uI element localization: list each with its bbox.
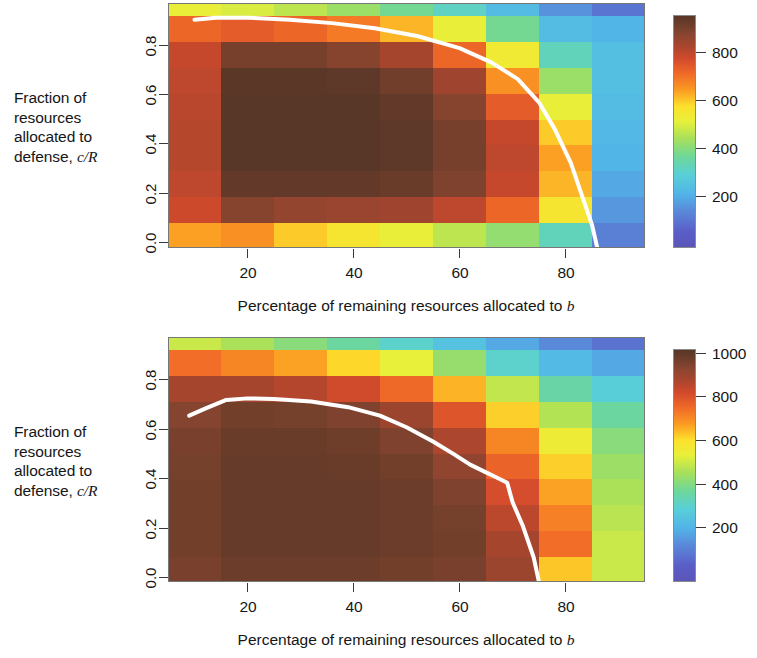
colorbar-bottom bbox=[673, 349, 696, 582]
y-axis-label-bottom: Fraction of resources allocated to defen… bbox=[14, 422, 97, 500]
y-tick-mark-bottom-2 bbox=[159, 478, 168, 479]
colorbar-label-top-1: 600 bbox=[712, 92, 738, 110]
y-tick-mark-bottom-3 bbox=[159, 528, 168, 529]
x-tick-mark-top-0 bbox=[247, 249, 248, 258]
y-tick-label-bottom-0: 0.8 bbox=[142, 370, 159, 391]
y-axis-label-line-3: allocated to bbox=[14, 127, 97, 147]
y-axis-label-line-2: resources bbox=[14, 108, 97, 128]
x-tick-label-bottom-2: 60 bbox=[451, 598, 468, 616]
y-tick-label-bottom-1: 0.6 bbox=[142, 420, 159, 441]
y-axis-label-bottom-line-1: Fraction of bbox=[14, 422, 97, 442]
colorbar-tick-mark-bottom-1 bbox=[696, 396, 706, 397]
colorbar-top bbox=[673, 15, 696, 248]
colorbar-tick-mark-bottom-2 bbox=[696, 440, 706, 441]
colorbar-label-top-2: 400 bbox=[712, 140, 738, 158]
figure-root: Fraction of resources allocated to defen… bbox=[0, 0, 757, 658]
x-tick-mark-top-3 bbox=[565, 249, 566, 258]
y-axis-label-math-r: R bbox=[88, 148, 97, 165]
x-axis-label-top: Percentage of remaining resources alloca… bbox=[238, 297, 575, 315]
heatmap-top[interactable] bbox=[168, 3, 645, 248]
x-tick-label-top-3: 80 bbox=[557, 264, 574, 282]
x-tick-label-top-0: 20 bbox=[239, 264, 256, 282]
x-axis-label-top-math-b: b bbox=[567, 297, 575, 314]
optimal-allocation-curve bbox=[168, 337, 645, 582]
y-tick-mark-bottom-0 bbox=[159, 379, 168, 380]
y-axis-label-line-1: Fraction of bbox=[14, 88, 97, 108]
colorbar-tick-mark-top-1 bbox=[696, 100, 706, 101]
y-axis-label-top: Fraction of resources allocated to defen… bbox=[14, 88, 97, 166]
x-tick-mark-top-2 bbox=[459, 249, 460, 258]
colorbar-tick-mark-bottom-3 bbox=[696, 484, 706, 485]
colorbar-tick-mark-bottom-0 bbox=[696, 353, 706, 354]
x-tick-label-bottom-3: 80 bbox=[557, 598, 574, 616]
y-tick-mark-top-2 bbox=[159, 143, 168, 144]
y-axis-label-bottom-math-c: c bbox=[77, 482, 84, 499]
y-tick-label-top-0: 0.8 bbox=[142, 36, 159, 57]
colorbar-tick-mark-bottom-4 bbox=[696, 527, 706, 528]
y-axis-label-bottom-math-r: R bbox=[88, 482, 97, 499]
x-tick-label-top-2: 60 bbox=[451, 264, 468, 282]
y-tick-mark-bottom-4 bbox=[159, 577, 168, 578]
y-axis-label-line-4-text: defense, bbox=[14, 148, 77, 165]
x-axis-label-bottom-text: Percentage of remaining resources alloca… bbox=[238, 631, 567, 648]
colorbar-tick-mark-top-3 bbox=[696, 196, 706, 197]
y-axis-label-bottom-line-4-text: defense, bbox=[14, 482, 77, 499]
x-tick-mark-bottom-1 bbox=[353, 583, 354, 592]
x-tick-label-bottom-0: 20 bbox=[239, 598, 256, 616]
colorbar-label-bottom-4: 200 bbox=[712, 519, 738, 537]
y-tick-label-top-3: 0.2 bbox=[142, 184, 159, 205]
x-tick-mark-bottom-3 bbox=[565, 583, 566, 592]
colorbar-label-top-0: 800 bbox=[712, 44, 738, 62]
y-tick-mark-top-1 bbox=[159, 94, 168, 95]
y-axis-label-bottom-line-4: defense, c/R bbox=[14, 481, 97, 501]
colorbar-label-bottom-1: 800 bbox=[712, 388, 738, 406]
y-axis-label-line-4: defense, c/R bbox=[14, 147, 97, 167]
y-tick-label-top-2: 0.4 bbox=[142, 134, 159, 155]
optimal-allocation-curve bbox=[168, 3, 645, 248]
heatmap-bottom[interactable] bbox=[168, 337, 645, 582]
y-tick-label-bottom-3: 0.2 bbox=[142, 519, 159, 540]
x-axis-label-bottom: Percentage of remaining resources alloca… bbox=[238, 631, 575, 649]
y-axis-label-math-c: c bbox=[77, 148, 84, 165]
x-tick-mark-top-1 bbox=[353, 249, 354, 258]
y-tick-label-bottom-4: 0.0 bbox=[142, 568, 159, 589]
colorbar-label-bottom-0: 1000 bbox=[712, 345, 746, 363]
colorbar-label-top-3: 200 bbox=[712, 188, 738, 206]
x-tick-mark-bottom-0 bbox=[247, 583, 248, 592]
y-axis-label-bottom-line-2: resources bbox=[14, 442, 97, 462]
x-tick-label-top-1: 40 bbox=[345, 264, 362, 282]
y-tick-mark-bottom-1 bbox=[159, 429, 168, 430]
colorbar-label-bottom-2: 600 bbox=[712, 432, 738, 450]
y-tick-mark-top-4 bbox=[159, 242, 168, 243]
x-tick-label-bottom-1: 40 bbox=[345, 598, 362, 616]
colorbar-label-bottom-3: 400 bbox=[712, 476, 738, 494]
colorbar-tick-mark-top-2 bbox=[696, 148, 706, 149]
y-tick-label-bottom-2: 0.4 bbox=[142, 469, 159, 490]
x-axis-label-top-text: Percentage of remaining resources alloca… bbox=[238, 297, 567, 314]
x-axis-label-bottom-math-b: b bbox=[567, 631, 575, 648]
colorbar-tick-mark-top-0 bbox=[696, 52, 706, 53]
y-tick-label-top-4: 0.0 bbox=[142, 233, 159, 254]
y-tick-mark-top-0 bbox=[159, 45, 168, 46]
x-tick-mark-bottom-2 bbox=[459, 583, 460, 592]
y-tick-label-top-1: 0.6 bbox=[142, 85, 159, 106]
y-tick-mark-top-3 bbox=[159, 193, 168, 194]
y-axis-label-bottom-line-3: allocated to bbox=[14, 461, 97, 481]
